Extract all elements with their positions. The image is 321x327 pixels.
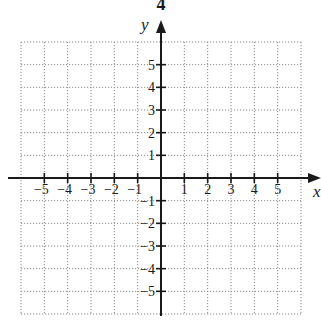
x-tick-label: −4 [57,182,72,197]
y-tick-label: 2 [148,126,155,141]
y-tick-label: 5 [148,58,155,73]
coordinate-plane: 4 x y −5−4−3−2−112345 −5−4−3−2−112345 [0,0,321,327]
y-tick-label: −3 [140,239,155,254]
x-axis-label: x [312,182,321,201]
y-tick-label: 4 [148,80,155,95]
y-tick-label: −5 [140,284,155,299]
y-axis-arrow-icon [156,20,166,33]
y-axis-label: y [139,15,149,34]
x-tick-label: 4 [251,182,258,197]
x-tick-label: −3 [81,182,96,197]
x-tick-label: 1 [181,182,188,197]
y-tick-label: −4 [140,262,155,277]
x-tick-label: −5 [34,182,49,197]
top-label: 4 [157,0,166,14]
x-tick-label: 3 [228,182,235,197]
y-tick-label: −1 [140,194,155,209]
x-tick-label: 2 [204,182,211,197]
x-tick-labels: −5−4−3−2−112345 [34,182,281,197]
y-tick-label: −2 [140,216,155,231]
x-tick-label: 5 [274,182,281,197]
y-tick-label: 3 [148,103,155,118]
x-tick-label: −2 [104,182,119,197]
y-tick-label: 1 [148,148,155,163]
